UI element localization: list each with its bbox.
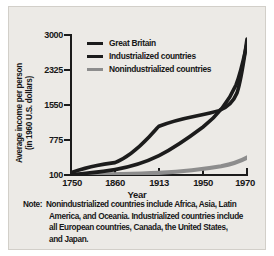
note-line-1: Note: Nonindustrialized countries includ… [23,199,257,211]
legend-item-industrialized: Industrialized countries [87,51,211,61]
legend-item-great-britain: Great Britain [87,38,211,48]
legend-swatch-great-britain [87,42,103,45]
x-tick-label-1913: 1913 [149,177,169,188]
legend-swatch-industrialized [87,55,103,58]
x-tick-label-1950: 1950 [193,177,213,188]
legend-label-industrialized: Industrialized countries [109,51,196,61]
y-tick-label-1550: 1550 [44,100,63,110]
legend-label-great-britain: Great Britain [109,38,156,48]
chart-note: Note: Nonindustrialized countries includ… [23,199,257,245]
legend-label-nonindustrialized: Nonindustrialized countries [109,64,211,74]
note-line-2: America, and Oceania. Industrialized cou… [23,211,257,223]
figure-panel: Average income per person (in 1960 U.S. … [8,6,266,250]
note-text-1: Nonindustrialized countries include Afri… [46,200,236,209]
legend-item-nonindustrialized: Nonindustrialized countries [87,64,211,74]
y-tick-label-775: 775 [49,135,63,145]
chart-legend: Great Britain Industrialized countries N… [87,38,211,74]
x-tick-label-1750: 1750 [62,177,82,188]
note-label: Note: [23,200,42,209]
note-line-3: all European countries, Canada, the Unit… [23,222,257,234]
y-tick-label-2325: 2325 [44,65,63,75]
y-tick-label-3000: 3000 [44,30,63,40]
note-line-4: and Japan. [23,234,257,246]
x-tick-label-1970: 1970 [235,177,255,188]
x-tick-label-1860: 1860 [105,177,125,188]
legend-swatch-nonindustrialized [87,68,103,71]
y-tick-label-100: 100 [49,170,63,180]
